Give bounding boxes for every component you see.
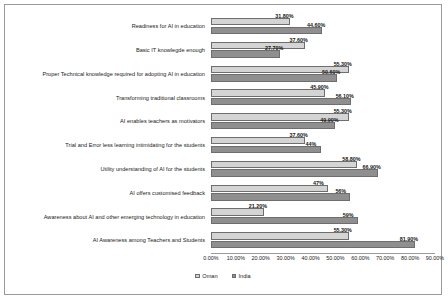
bar-oman	[211, 161, 357, 168]
data-label-oman: 45.90%	[310, 84, 328, 90]
category-label: AI offers customised feedback	[11, 190, 211, 197]
legend-swatch-icon	[232, 274, 237, 279]
bar-group: 21.20%59%	[211, 205, 435, 229]
bar-row: AI enables teachers as motivators55.30%4…	[11, 110, 435, 134]
bar-row: Readiness for AI in education31.80%44.60…	[11, 15, 435, 39]
legend-label: Oman	[202, 273, 217, 279]
bar-india	[211, 74, 337, 81]
x-tick-label: 50.00%	[326, 255, 344, 261]
x-axis-line	[211, 253, 435, 254]
category-label: Basic IT knowlegde enough	[11, 47, 211, 54]
x-tick-label: 40.00%	[301, 255, 319, 261]
data-label-india: 81.90%	[400, 236, 418, 242]
bar-row: Trial and Error less learning intimidati…	[11, 134, 435, 158]
bar-row: Utility understanding of AI for the stud…	[11, 158, 435, 182]
data-label-oman: 21.20%	[249, 203, 267, 209]
x-tick-label: 0.00%	[203, 255, 218, 261]
bar-group: 58.80%66.90%	[211, 158, 435, 182]
bar-row: Basic IT knowlegde enough37.60%27.70%	[11, 39, 435, 63]
data-label-oman: 47%	[313, 180, 324, 186]
data-label-oman: 37.60%	[290, 37, 308, 43]
data-label-oman: 31.80%	[275, 13, 293, 19]
data-label-india: 66.90%	[363, 164, 381, 170]
data-label-india: 56%	[335, 188, 346, 194]
bar-oman	[211, 232, 349, 239]
bar-india	[211, 122, 335, 129]
x-tick-label: 90.00%	[426, 255, 444, 261]
plot-area: Readiness for AI in education31.80%44.60…	[11, 11, 435, 288]
bar-india	[211, 217, 358, 224]
x-tick-label: 20.00%	[252, 255, 270, 261]
data-label-india: 44.60%	[307, 22, 325, 28]
x-tick-label: 80.00%	[401, 255, 419, 261]
category-label: Transforming traditional classrooms	[11, 95, 211, 102]
data-label-oman: 55.30%	[334, 227, 352, 233]
data-label-oman: 58.80%	[342, 156, 360, 162]
legend-item-india[interactable]: India	[232, 273, 251, 279]
bar-row: Awareness about AI and other emerging te…	[11, 205, 435, 229]
data-label-india: 49.90%	[320, 117, 338, 123]
bar-india	[211, 169, 378, 176]
bar-group: 45.90%56.10%	[211, 86, 435, 110]
legend-label: India	[239, 273, 251, 279]
category-label: Awareness about AI and other emerging te…	[11, 214, 211, 221]
bar-group: 37.60%27.70%	[211, 39, 435, 63]
x-tick-label: 10.00%	[227, 255, 245, 261]
data-label-india: 27.70%	[265, 45, 283, 51]
bar-group: 55.30%50.60%	[211, 63, 435, 87]
x-axis: 0.00%10.00%20.00%30.00%40.00%50.00%60.00…	[211, 253, 435, 265]
chart-legend: OmanIndia	[11, 273, 435, 279]
bar-oman	[211, 137, 305, 144]
bar-oman	[211, 208, 264, 215]
category-label: Trial and Error less learning intimidati…	[11, 142, 211, 149]
category-label: Utility understanding of AI for the stud…	[11, 166, 211, 173]
data-label-oman: 37.60%	[290, 132, 308, 138]
bar-india	[211, 193, 350, 200]
bar-oman	[211, 89, 325, 96]
bar-oman	[211, 185, 328, 192]
data-label-india: 44%	[306, 141, 317, 147]
category-label: Proper Technical knowledge required for …	[11, 71, 211, 78]
bar-india	[211, 98, 351, 105]
bar-oman	[211, 42, 305, 49]
chart-container: Readiness for AI in education31.80%44.60…	[4, 4, 442, 295]
bar-group: 31.80%44.60%	[211, 15, 435, 39]
x-tick-label: 70.00%	[376, 255, 394, 261]
category-label: Readiness for AI in education	[11, 23, 211, 30]
data-label-india: 56.10%	[336, 93, 354, 99]
bar-india	[211, 27, 322, 34]
bar-oman	[211, 18, 290, 25]
bar-row: AI offers customised feedback47%56%	[11, 182, 435, 206]
data-label-india: 59%	[343, 212, 354, 218]
legend-swatch-icon	[195, 274, 200, 279]
x-tick-label: 60.00%	[351, 255, 369, 261]
bar-group: 47%56%	[211, 182, 435, 206]
bar-india	[211, 241, 415, 248]
data-label-oman: 55.30%	[334, 108, 352, 114]
category-label: AI enables teachers as motivators	[11, 118, 211, 125]
data-label-oman: 55.30%	[334, 61, 352, 67]
bar-group: 37.60%44%	[211, 134, 435, 158]
category-label: AI Awareness among Teachers and Students	[11, 237, 211, 244]
data-label-india: 50.60%	[322, 69, 340, 75]
bar-india	[211, 146, 321, 153]
bar-row: AI Awareness among Teachers and Students…	[11, 229, 435, 253]
bar-india	[211, 50, 280, 57]
bar-rows: Readiness for AI in education31.80%44.60…	[11, 15, 435, 253]
bar-row: Transforming traditional classrooms45.90…	[11, 86, 435, 110]
bar-row: Proper Technical knowledge required for …	[11, 63, 435, 87]
bar-group: 55.30%49.90%	[211, 110, 435, 134]
legend-item-oman[interactable]: Oman	[195, 273, 217, 279]
bar-group: 55.30%81.90%	[211, 229, 435, 253]
x-tick-label: 30.00%	[277, 255, 295, 261]
